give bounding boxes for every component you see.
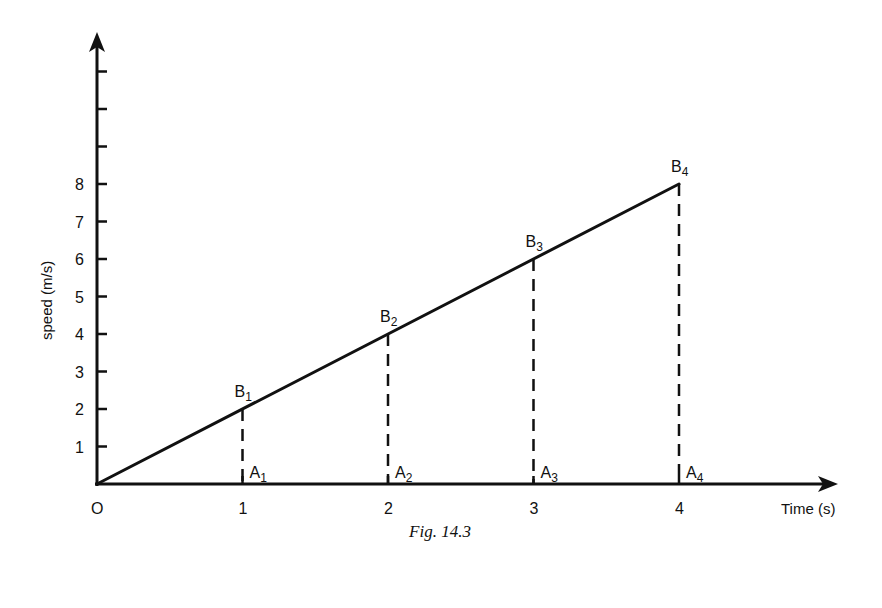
x-axis-title: Time (s) <box>781 500 835 517</box>
y-tick-label: 8 <box>75 176 84 193</box>
y-axis-tick-labels: 12345678 <box>75 176 84 456</box>
y-tick-label: 4 <box>75 326 84 343</box>
a-point-label: A4 <box>686 464 704 485</box>
speed-time-graph: 12345678 1234 B1B2B3B4 A1A2A3A4 O speed … <box>0 0 882 608</box>
x-tick-label: 4 <box>675 500 684 517</box>
b-point-label: B3 <box>526 233 544 254</box>
b-point-label: B1 <box>235 383 253 404</box>
x-tick-label: 1 <box>239 500 248 517</box>
y-tick-label: 2 <box>75 401 84 418</box>
a-point-label: A2 <box>395 464 413 485</box>
axes <box>95 42 828 486</box>
y-axis-title: speed (m/s) <box>38 261 55 340</box>
y-tick-label: 6 <box>75 251 84 268</box>
y-tick-label: 3 <box>75 364 84 381</box>
x-axis-tick-labels: 1234 <box>239 500 685 517</box>
y-tick-label: 7 <box>75 214 84 231</box>
x-tick-label: 3 <box>530 500 539 517</box>
y-tick-label: 5 <box>75 289 84 306</box>
b-point-label: B2 <box>380 308 398 329</box>
a-point-label: A1 <box>250 464 268 485</box>
y-tick-label: 1 <box>75 439 84 456</box>
x-tick-label: 2 <box>384 500 393 517</box>
a-point-label: A3 <box>541 464 559 485</box>
a-point-labels: A1A2A3A4 <box>250 464 704 485</box>
dashed-verticals <box>243 184 680 484</box>
b-point-label: B4 <box>671 158 689 179</box>
origin-label: O <box>91 500 103 517</box>
figure-caption: Fig. 14.3 <box>380 522 500 542</box>
b-point-labels: B1B2B3B4 <box>235 158 689 404</box>
